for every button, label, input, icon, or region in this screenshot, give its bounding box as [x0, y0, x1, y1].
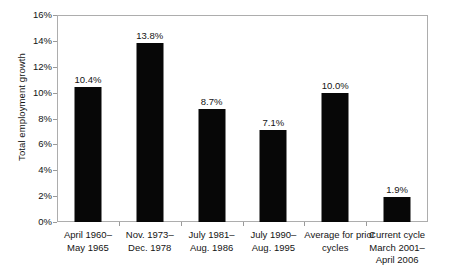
x-axis-category-label: Current cycleMarch 2001–April 2006: [366, 229, 428, 267]
x-axis-category-label: Nov. 1973–Dec. 1978: [119, 229, 181, 254]
x-axis-category-label-line: July 1990–: [243, 229, 305, 242]
x-axis-category-label-line: Aug. 1986: [181, 242, 243, 255]
x-axis-category-label-line: Dec. 1978: [119, 242, 181, 255]
x-axis-category-label-line: May 1965: [57, 242, 119, 255]
x-axis-category-label: Average for priorcycles: [304, 229, 366, 254]
x-axis-category-label-line: April 1960–: [57, 229, 119, 242]
x-axis-category-label-line: Average for prior: [304, 229, 366, 242]
x-axis-tick-mark: [366, 222, 367, 226]
x-axis-category-label-line: Aug. 1995: [243, 242, 305, 255]
bar-chart-figure: Total employment growth 0%2%4%6%8%10%12%…: [0, 0, 455, 277]
x-axis-category-label-line: March 2001–: [366, 242, 428, 255]
x-axis-tick-mark: [181, 222, 182, 226]
x-axis-tick-mark: [119, 222, 120, 226]
x-axis-category-label-line: April 2006: [366, 254, 428, 267]
x-axis-tick-mark: [304, 222, 305, 226]
x-axis-category-label-line: July 1981–: [181, 229, 243, 242]
x-axis-tick-mark: [243, 222, 244, 226]
x-axis-category-label-line: cycles: [304, 242, 366, 255]
x-axis-category-label-line: Current cycle: [366, 229, 428, 242]
x-axis-category-label: July 1990–Aug. 1995: [243, 229, 305, 254]
x-axis-category-labels: April 1960–May 1965Nov. 1973–Dec. 1978Ju…: [57, 229, 428, 277]
x-axis-category-label: April 1960–May 1965: [57, 229, 119, 254]
x-axis-category-label: July 1981–Aug. 1986: [181, 229, 243, 254]
x-axis-category-label-line: Nov. 1973–: [119, 229, 181, 242]
